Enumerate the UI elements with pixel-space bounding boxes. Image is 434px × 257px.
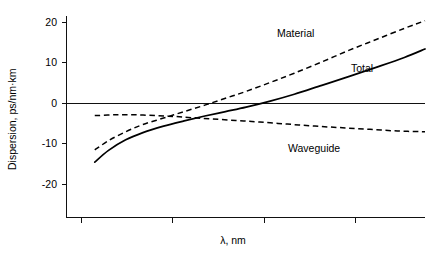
- y-axis-title: Dispersion, ps/nm·km: [6, 68, 18, 170]
- x-axis-ticks: [82, 218, 356, 223]
- y-tick-label-minus-10: -10: [42, 137, 57, 149]
- series-label-material: Material: [277, 27, 314, 39]
- chart-plot-area: 20 10 0 -10 -20 Dispersion, ps/nm·km λ, …: [0, 0, 434, 257]
- series-line-material: [95, 21, 425, 150]
- y-tick-label-10: 10: [45, 56, 57, 68]
- y-tick-label-0: 0: [51, 97, 57, 109]
- series-line-total: [95, 49, 425, 162]
- series-label-waveguide: Waveguide: [288, 142, 340, 154]
- dispersion-chart-figure: 20 10 0 -10 -20 Dispersion, ps/nm·km λ, …: [0, 0, 434, 257]
- series-label-total: Total: [351, 62, 373, 74]
- y-tick-label-minus-20: -20: [42, 178, 57, 190]
- y-axis-ticks: [62, 23, 67, 185]
- y-tick-label-20: 20: [45, 16, 57, 28]
- x-axis-title: λ, nm: [220, 234, 246, 246]
